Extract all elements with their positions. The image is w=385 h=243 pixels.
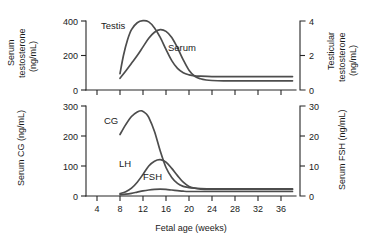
x-tick-label-32: 32 [253, 204, 263, 214]
bottom-right-tick-label-30: 30 [309, 102, 319, 112]
bottom-left-tick-label-0: 0 [73, 192, 78, 202]
two-panel-hormone-chart: 400 200 0 Serum testosterone (ng/mL) [0, 0, 385, 243]
bottom-right-tick-label-0: 0 [309, 192, 314, 202]
x-tick-label-16: 16 [161, 204, 171, 214]
x-axis-title: Fetal age (weeks) [155, 223, 227, 233]
gonadotropin-panel: 300 200 100 0 Serum CG (ng/mL) 4 8 12 [16, 102, 347, 234]
testosterone-panel: 400 200 0 Serum testosterone (ng/mL) [6, 17, 358, 96]
x-tick-label-8: 8 [117, 204, 122, 214]
top-right-axis-title-line3: (ng/mL) [348, 45, 358, 76]
bottom-left-tick-label-300: 300 [63, 102, 78, 112]
x-tick-label-24: 24 [207, 204, 217, 214]
top-right-tick-label-4: 4 [309, 17, 314, 27]
top-left-axis-title-line2: testosterone [17, 28, 27, 78]
x-tick-label-28: 28 [230, 204, 240, 214]
figure-container: 400 200 0 Serum testosterone (ng/mL) [0, 0, 385, 243]
top-left-axis-title-line1: Serum [6, 39, 16, 66]
bottom-left-tick-label-100: 100 [63, 162, 78, 172]
x-tick-label-4: 4 [94, 204, 99, 214]
top-x-axis-ticks [97, 90, 281, 95]
curve-label-lh: LH [119, 158, 131, 169]
curve-testis [120, 21, 293, 77]
top-left-axis-title-line3: (ng/mL) [28, 41, 38, 72]
curve-label-testis: Testis [101, 20, 126, 31]
bottom-left-axis-title: Serum CG (ng/mL) [16, 110, 26, 186]
top-right-axis-title-line1: Testicular [326, 32, 336, 70]
bottom-x-axis-ticks [97, 196, 281, 201]
bottom-right-tick-label-10: 10 [309, 162, 319, 172]
top-right-tick-label-2: 2 [309, 51, 314, 61]
top-left-tick-label-0: 0 [73, 86, 78, 96]
top-right-axis-title-line2: testosterone [337, 32, 347, 82]
x-tick-label-20: 20 [184, 204, 194, 214]
x-tick-label-12: 12 [138, 204, 148, 214]
top-right-tick-label-0: 0 [309, 86, 314, 96]
bottom-right-tick-label-20: 20 [309, 132, 319, 142]
curve-label-cg: CG [104, 115, 118, 126]
top-left-tick-label-400: 400 [63, 17, 78, 27]
curve-serum-testosterone [120, 30, 293, 81]
x-tick-label-36: 36 [276, 204, 286, 214]
bottom-right-axis-spine [300, 106, 305, 196]
bottom-left-tick-label-200: 200 [63, 132, 78, 142]
curve-label-fsh: FSH [143, 171, 162, 182]
top-left-tick-label-200: 200 [63, 51, 78, 61]
bottom-right-axis-title: Serum FSH (ng/mL) [337, 109, 347, 190]
curve-label-serum: Serum [168, 42, 196, 53]
